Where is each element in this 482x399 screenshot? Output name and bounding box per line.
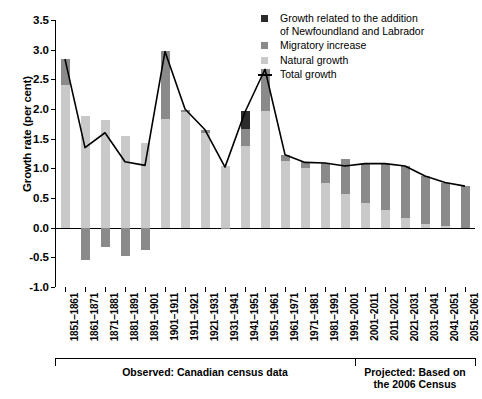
x-tick-mark xyxy=(365,287,366,292)
x-tick-label: 1881–1891 xyxy=(129,293,140,341)
x-tick-label: 2051–2061 xyxy=(469,293,480,341)
x-tick-mark xyxy=(305,287,306,292)
x-tick-label: 2021–2031 xyxy=(409,293,420,341)
x-tick-label: 1941–1951 xyxy=(249,293,260,341)
x-tick-mark xyxy=(445,287,446,292)
projected-label-line1: Projected: Based on xyxy=(364,366,466,378)
legend-swatch xyxy=(261,42,268,49)
x-tick-mark xyxy=(105,287,106,292)
legend-item: Growth related to the additionof Newfoun… xyxy=(258,12,480,37)
legend-swatch xyxy=(261,15,268,22)
period-brackets: Observed: Canadian census data Projected… xyxy=(55,358,475,399)
observed-bracket-label: Observed: Canadian census data xyxy=(55,366,355,378)
chart-root: Growth rate (per cent) 3.53.02.52.01.51.… xyxy=(0,0,482,399)
projected-bracket xyxy=(355,358,476,366)
x-tick-label: 1951–1961 xyxy=(269,293,280,341)
legend-label: Natural growth xyxy=(280,54,348,66)
x-tick-label: 1981–1991 xyxy=(329,293,340,341)
x-tick-mark xyxy=(425,287,426,292)
x-tick-label: 1851–1861 xyxy=(69,293,80,341)
y-axis-title: Growth rate (per cent) xyxy=(21,49,33,219)
x-tick-label: 1901–1911 xyxy=(169,293,180,341)
x-tick-mark xyxy=(345,287,346,292)
legend-label-line2: of Newfoundland and Labrador xyxy=(280,25,424,37)
x-tick-label: 2011–2021 xyxy=(389,293,400,341)
x-tick-label: 2031–2041 xyxy=(429,293,440,341)
legend-swatch xyxy=(261,57,268,64)
x-tick-mark xyxy=(325,287,326,292)
projected-bracket-label: Projected: Based on the 2006 Census xyxy=(355,366,475,390)
legend-label: Migratory increase xyxy=(280,39,366,51)
x-tick-mark xyxy=(125,287,126,292)
x-tick-mark xyxy=(285,287,286,292)
observed-bracket xyxy=(55,358,356,366)
x-tick-mark xyxy=(385,287,386,292)
x-tick-mark xyxy=(225,287,226,292)
x-tick-mark xyxy=(185,287,186,292)
x-tick-label: 2001–2011 xyxy=(369,293,380,341)
x-tick-mark xyxy=(205,287,206,292)
legend-line-marker xyxy=(258,74,272,76)
x-tick-label: 1991–2001 xyxy=(349,293,360,341)
x-tick-label: 2041–2051 xyxy=(449,293,460,341)
legend-label: Growth related to the addition xyxy=(280,12,418,24)
x-tick-mark xyxy=(405,287,406,292)
legend-item: Total growth xyxy=(258,68,480,81)
x-tick-mark xyxy=(145,287,146,292)
x-tick-label: 1861–1871 xyxy=(89,293,100,341)
x-tick-mark xyxy=(165,287,166,292)
x-tick-mark xyxy=(265,287,266,292)
x-tick-mark xyxy=(65,287,66,292)
x-tick-mark xyxy=(85,287,86,292)
x-axis-labels: 1851–18611861–18711871–18811881–18911891… xyxy=(55,293,475,355)
x-tick-label: 1891–1901 xyxy=(149,293,160,341)
legend-item: Natural growth xyxy=(258,54,480,67)
chart-legend: Growth related to the additionof Newfoun… xyxy=(258,12,480,83)
legend-label: Total growth xyxy=(280,68,337,80)
projected-label-line2: the 2006 Census xyxy=(374,378,457,390)
x-tick-mark xyxy=(245,287,246,292)
x-tick-label: 1961–1971 xyxy=(289,293,300,341)
legend-item: Migratory increase xyxy=(258,39,480,52)
x-tick-label: 1931–1941 xyxy=(229,293,240,341)
x-tick-label: 1921–1931 xyxy=(209,293,220,341)
x-tick-label: 1871–1881 xyxy=(109,293,120,341)
x-tick-label: 1971–1981 xyxy=(309,293,320,341)
x-tick-label: 1911–1921 xyxy=(189,293,200,341)
x-tick-mark xyxy=(465,287,466,292)
